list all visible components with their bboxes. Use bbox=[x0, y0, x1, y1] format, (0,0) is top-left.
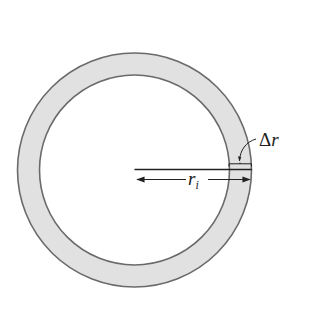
thickness-label: Δr bbox=[259, 129, 279, 150]
inner-radius-label: ri bbox=[188, 168, 199, 192]
ring-diagram: ri Δr bbox=[0, 0, 312, 315]
